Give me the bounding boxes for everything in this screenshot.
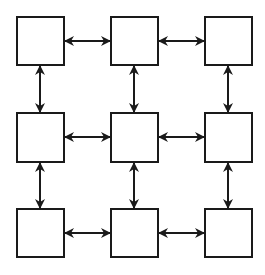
node-box — [205, 17, 252, 65]
grid-node-r2c3 — [205, 113, 252, 162]
node-box — [205, 113, 252, 162]
grid-diagram — [0, 0, 265, 275]
node-box — [205, 209, 252, 257]
grid-node-r1c2 — [111, 17, 158, 65]
node-box — [17, 17, 64, 65]
grid-node-r2c2 — [111, 113, 158, 162]
node-box — [111, 209, 158, 257]
node-box — [17, 113, 64, 162]
node-box — [111, 17, 158, 65]
nodes-layer — [17, 17, 252, 257]
node-box — [111, 113, 158, 162]
grid-node-r1c3 — [205, 17, 252, 65]
grid-node-r3c3 — [205, 209, 252, 257]
grid-node-r3c1 — [17, 209, 64, 257]
grid-node-r3c2 — [111, 209, 158, 257]
grid-node-r1c1 — [17, 17, 64, 65]
node-box — [17, 209, 64, 257]
grid-node-r2c1 — [17, 113, 64, 162]
